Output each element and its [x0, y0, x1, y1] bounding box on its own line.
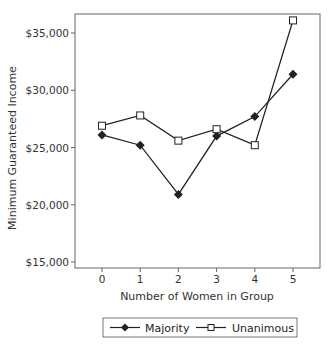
- line-chart: $15,000$20,000$25,000$30,000$35,000 0123…: [0, 0, 330, 350]
- square-marker-icon: [137, 112, 144, 119]
- y-tick-label: $20,000: [26, 199, 69, 211]
- x-tick-label: 1: [137, 273, 144, 285]
- x-axis: 012345: [99, 268, 297, 285]
- diamond-marker-icon: [98, 130, 107, 139]
- y-tick-label: $35,000: [26, 27, 69, 39]
- legend: Majority Unanimous: [103, 318, 297, 337]
- y-tick-label: $15,000: [26, 256, 69, 268]
- square-marker-icon: [99, 122, 106, 129]
- series-layer: [98, 17, 298, 199]
- square-marker-icon: [213, 126, 220, 133]
- x-tick-label: 3: [213, 273, 220, 285]
- legend-label-majority: Majority: [145, 322, 190, 335]
- y-tick-label: $30,000: [26, 84, 69, 96]
- legend-label-unanimous: Unanimous: [232, 322, 294, 335]
- x-tick-label: 2: [175, 273, 182, 285]
- square-marker-icon: [251, 142, 258, 149]
- x-axis-label: Number of Women in Group: [120, 290, 274, 303]
- square-marker-icon: [290, 17, 297, 24]
- series-unanimous: [99, 17, 297, 149]
- x-tick-label: 0: [99, 273, 106, 285]
- x-tick-label: 5: [290, 273, 297, 285]
- y-axis: $15,000$20,000$25,000$30,000$35,000: [26, 27, 75, 268]
- square-marker-icon: [175, 137, 182, 144]
- x-tick-label: 4: [251, 273, 258, 285]
- square-open-marker-icon: [208, 325, 214, 331]
- y-axis-label: Minimum Guaranteed Income: [6, 66, 19, 230]
- y-tick-label: $25,000: [26, 142, 69, 154]
- series-line: [102, 20, 293, 145]
